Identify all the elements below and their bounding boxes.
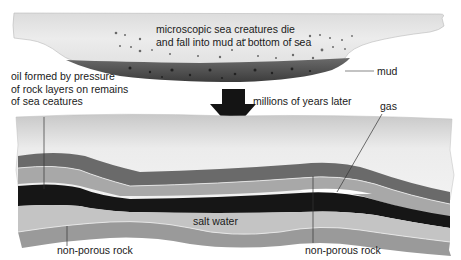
sea-caption: microscopic sea creatures die and fall i… [156,23,311,48]
rock-strata [16,114,454,256]
mud-label: mud [377,65,397,77]
oil-label-line2: of rock layers on remains [11,83,128,96]
oil-label: oil formed by pressure of rock layers on… [11,70,128,108]
sea-caption-line1: microscopic sea creatures die [156,23,311,36]
non-porous-rock-left-label: non-porous rock [57,244,133,256]
transition-label: millions of years later [253,95,352,107]
oil-label-line1: oil formed by pressure [11,70,128,83]
sea-caption-line2: and fall into mud at bottom of sea [156,36,311,49]
salt-water-label: salt water [193,215,238,227]
oil-label-line3: of sea ceatures [11,95,128,108]
non-porous-rock-right-label: non-porous rock [305,244,381,256]
gas-label: gas [380,100,397,112]
